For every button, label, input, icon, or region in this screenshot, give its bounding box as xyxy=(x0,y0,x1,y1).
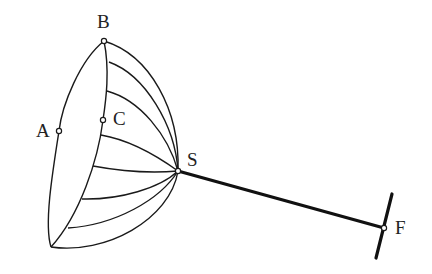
outer-rim-back xyxy=(48,41,104,247)
label-f: F xyxy=(395,217,406,238)
meridian-outer-bottom xyxy=(51,171,178,248)
meridian-5 xyxy=(82,171,178,199)
point-c xyxy=(100,117,105,122)
point-b xyxy=(101,38,106,43)
meridian-outer-top xyxy=(104,41,178,171)
label-a: A xyxy=(36,120,50,141)
label-b: B xyxy=(97,11,110,32)
meridian-3 xyxy=(101,135,178,171)
point-a xyxy=(56,128,61,133)
point-f xyxy=(381,225,386,230)
rod-s-to-f xyxy=(178,171,384,228)
hemisphere-diagram: B A C S F xyxy=(0,0,432,274)
meridian-4 xyxy=(93,166,178,172)
meridian-2 xyxy=(107,91,178,171)
label-c: C xyxy=(113,108,126,129)
label-s: S xyxy=(187,149,198,170)
point-s xyxy=(175,168,180,173)
